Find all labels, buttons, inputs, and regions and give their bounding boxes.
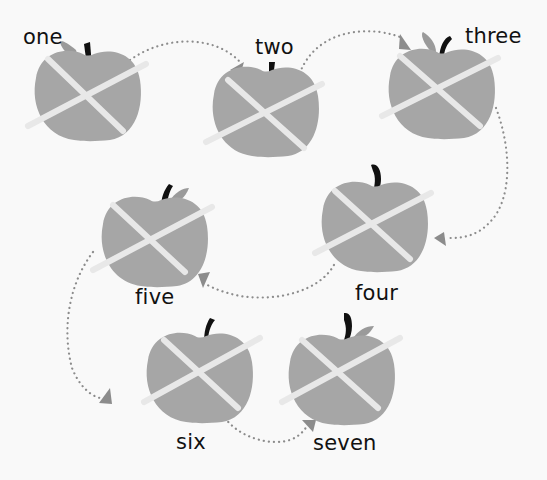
apple-one (28, 41, 146, 141)
apple-four (315, 165, 431, 273)
arrowhead-icon (99, 388, 112, 404)
arrow-six-to-seven (225, 418, 316, 442)
apple-two (206, 62, 322, 157)
apple-counting-diagram (0, 0, 547, 480)
arrow-five-to-six (67, 252, 112, 404)
apple-six (144, 318, 260, 423)
apple-five (93, 184, 212, 287)
label-six: six (176, 432, 206, 453)
arrowhead-icon (434, 232, 446, 246)
label-two: two (255, 37, 294, 58)
apple-seven (282, 313, 400, 425)
arrow-one-to-two (130, 41, 244, 72)
label-one: one (23, 27, 63, 48)
label-five: five (135, 287, 174, 308)
label-four: four (355, 283, 398, 304)
label-seven: seven (313, 433, 377, 454)
arrowhead-icon (399, 34, 411, 50)
label-three: three (465, 26, 522, 47)
arrow-four-to-five (198, 265, 334, 298)
